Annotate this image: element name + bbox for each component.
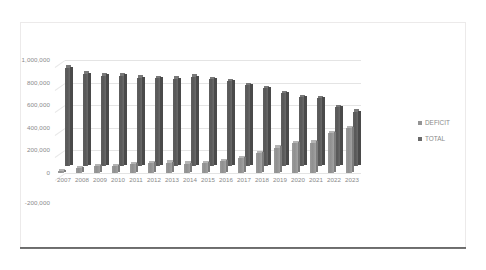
bar-side-face — [172, 162, 175, 172]
bar-side-face — [334, 132, 337, 172]
bar-side-face — [316, 141, 319, 172]
bar-total-2016 — [227, 81, 233, 166]
chart-legend: DEFICITTOTAL — [418, 119, 478, 151]
plot-area — [55, 60, 361, 173]
bar-side-face — [322, 97, 325, 165]
bar-total-2011 — [137, 78, 143, 166]
gridline — [65, 173, 361, 174]
bar-side-face — [280, 146, 283, 171]
x-axis-tick-label: 2007 — [55, 176, 73, 183]
bar-side-face — [106, 74, 109, 164]
bar-side-face — [244, 157, 247, 172]
x-axis-tick-label: 2019 — [271, 176, 289, 183]
bar-side-face — [100, 165, 103, 172]
bar-total-2015 — [209, 79, 215, 166]
y-axis-labels: 1,000,000800,000600,000400,000200,0000-2… — [0, 60, 50, 200]
y-axis-tick-label: 600,000 — [2, 101, 50, 108]
bar-side-face — [190, 163, 193, 172]
bar-side-face — [286, 92, 289, 165]
y-axis-tick-label: 0 — [2, 169, 50, 176]
bar-deficit-2011 — [130, 164, 136, 173]
x-axis-labels: 2007200820092010201120122013201420152016… — [55, 176, 375, 188]
x-axis-tick-label: 2013 — [163, 176, 181, 183]
bar-side-face — [64, 170, 67, 172]
y-axis-tick-label: 800,000 — [2, 79, 50, 86]
bar-side-face — [196, 76, 199, 165]
bar-deficit-2010 — [112, 166, 118, 173]
bar-deficit-2014 — [184, 164, 190, 173]
bar-side-face — [82, 167, 85, 172]
bar-deficit-2016 — [220, 161, 226, 173]
bar-deficit-2013 — [166, 163, 172, 173]
bar-deficit-2017 — [238, 158, 244, 173]
bar-side-face — [154, 162, 157, 172]
bar-side-face — [70, 67, 73, 165]
legend-swatch-icon — [418, 121, 422, 125]
x-axis-tick-label: 2014 — [181, 176, 199, 183]
bar-total-2012 — [155, 78, 161, 166]
legend-label: DEFICIT — [425, 119, 450, 126]
legend-swatch-icon — [418, 137, 422, 141]
bar-deficit-2007 — [58, 171, 64, 173]
bar-total-2009 — [101, 76, 107, 166]
y-axis-tick-label: -200,000 — [2, 199, 50, 206]
chart-bars — [55, 60, 361, 173]
bottom-divider-rule — [20, 247, 466, 249]
bar-side-face — [358, 111, 361, 165]
bar-side-face — [352, 127, 355, 172]
y-axis-tick-label: 200,000 — [2, 146, 50, 153]
bar-total-2010 — [119, 76, 125, 166]
bar-total-2013 — [173, 79, 179, 166]
bar-side-face — [136, 163, 139, 172]
bar-side-face — [304, 96, 307, 165]
x-axis-tick-label: 2022 — [325, 176, 343, 183]
bar-deficit-2012 — [148, 163, 154, 173]
x-axis-tick-label: 2011 — [127, 176, 145, 183]
bar-side-face — [160, 77, 163, 165]
x-axis-tick-label: 2018 — [253, 176, 271, 183]
legend-item-deficit[interactable]: DEFICIT — [418, 119, 478, 126]
bar-deficit-2019 — [274, 148, 280, 173]
bar-deficit-2020 — [292, 143, 298, 173]
bar-side-face — [340, 106, 343, 165]
bar-total-2007 — [65, 68, 71, 166]
bar-side-face — [268, 87, 271, 165]
bar-side-face — [232, 80, 235, 165]
x-axis-tick-label: 2023 — [343, 176, 361, 183]
bar-deficit-2008 — [76, 168, 82, 173]
bar-total-2008 — [83, 74, 89, 166]
x-axis-tick-label: 2015 — [199, 176, 217, 183]
bar-side-face — [214, 78, 217, 165]
bar-side-face — [226, 160, 229, 172]
bar-side-face — [178, 78, 181, 165]
bar-side-face — [298, 142, 301, 172]
x-axis-tick-label: 2021 — [307, 176, 325, 183]
bar-deficit-2018 — [256, 153, 262, 173]
y-axis-tick-label: 400,000 — [2, 124, 50, 131]
bar-side-face — [142, 77, 145, 165]
bar-deficit-2022 — [328, 133, 334, 173]
y-axis-tick-label: 1,000,000 — [2, 56, 50, 63]
bar-total-2014 — [191, 77, 197, 166]
x-axis-tick-label: 2012 — [145, 176, 163, 183]
bar-side-face — [118, 165, 121, 172]
x-axis-tick-label: 2010 — [109, 176, 127, 183]
bar-deficit-2021 — [310, 143, 316, 174]
x-axis-tick-label: 2009 — [91, 176, 109, 183]
x-axis-tick-label: 2016 — [217, 176, 235, 183]
bar-side-face — [88, 73, 91, 165]
bar-deficit-2015 — [202, 163, 208, 173]
legend-label: TOTAL — [425, 135, 445, 142]
x-axis-tick-label: 2008 — [73, 176, 91, 183]
legend-item-total[interactable]: TOTAL — [418, 135, 478, 142]
x-axis-tick-label: 2017 — [235, 176, 253, 183]
bar-side-face — [208, 162, 211, 172]
bar-deficit-2023 — [346, 128, 352, 173]
bar-side-face — [262, 152, 265, 172]
bar-side-face — [124, 74, 127, 164]
bar-side-face — [250, 84, 253, 165]
bar-deficit-2009 — [94, 166, 100, 173]
chart-screenshot: 1,000,000800,000600,000400,000200,0000-2… — [0, 0, 486, 270]
x-axis-tick-label: 2020 — [289, 176, 307, 183]
bar-total-2017 — [245, 85, 251, 166]
